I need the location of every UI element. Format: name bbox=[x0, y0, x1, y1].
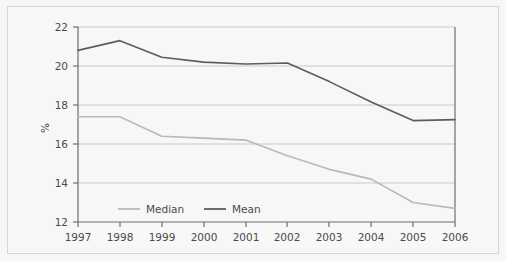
x-tick-labels: 1997 1998 1999 2000 2001 2002 2003 2004 … bbox=[65, 231, 469, 243]
axes bbox=[78, 27, 455, 222]
legend-label-median: Median bbox=[146, 203, 184, 215]
x-tick-label: 1998 bbox=[107, 231, 134, 243]
x-tick-label: 2000 bbox=[191, 231, 218, 243]
y-tick-label: 14 bbox=[55, 177, 69, 189]
x-tick-label: 1997 bbox=[65, 231, 92, 243]
y-tick-labels: 22 20 18 16 14 12 bbox=[55, 21, 69, 228]
x-tick-label: 2002 bbox=[274, 231, 301, 243]
series-line-median bbox=[78, 117, 455, 209]
x-tick-label: 2006 bbox=[442, 231, 469, 243]
line-chart: 22 20 18 16 14 12 % 1997 1998 1999 bbox=[0, 0, 506, 261]
legend-item-median: Median bbox=[118, 203, 184, 215]
y-tick-label: 22 bbox=[55, 21, 68, 33]
x-tick-label: 2005 bbox=[400, 231, 427, 243]
y-tick-label: 12 bbox=[55, 216, 68, 228]
legend-item-mean: Mean bbox=[204, 203, 261, 215]
x-tick-label: 2001 bbox=[233, 231, 260, 243]
series-line-mean bbox=[78, 41, 455, 121]
y-tick-label: 20 bbox=[55, 60, 68, 72]
legend-label-mean: Mean bbox=[232, 203, 261, 215]
y-axis-title: % bbox=[39, 123, 51, 133]
chart-figure: 22 20 18 16 14 12 % 1997 1998 1999 bbox=[0, 0, 506, 261]
x-tick-label: 2003 bbox=[316, 231, 343, 243]
gridlines bbox=[78, 27, 455, 183]
y-tick-label: 18 bbox=[55, 99, 68, 111]
x-tick-label: 2004 bbox=[358, 231, 385, 243]
x-tick-marks bbox=[78, 222, 455, 227]
chart-legend: Median Mean bbox=[118, 203, 261, 215]
y-tick-label: 16 bbox=[55, 138, 69, 150]
x-tick-label: 1999 bbox=[149, 231, 176, 243]
y-tick-marks bbox=[73, 27, 78, 222]
